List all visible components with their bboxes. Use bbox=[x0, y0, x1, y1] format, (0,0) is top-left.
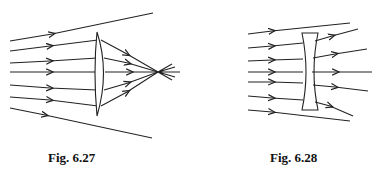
figure-caption-6-27: Fig. 6.27 bbox=[48, 150, 95, 166]
ray-diagrams bbox=[0, 0, 377, 172]
convex-lens bbox=[95, 32, 104, 116]
concave-lens-diagram bbox=[248, 23, 372, 121]
figure-caption-6-28: Fig. 6.28 bbox=[270, 150, 317, 166]
convex-lens-diagram bbox=[10, 13, 180, 138]
